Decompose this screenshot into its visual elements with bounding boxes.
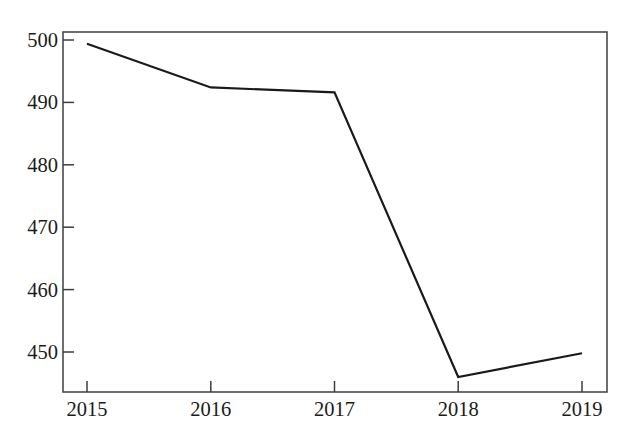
chart-figure: 500 490 480 470 460 450 2015 2016 2017 2… <box>0 0 627 446</box>
x-tick-label-2019: 2019 <box>562 398 603 420</box>
x-tick-label-2016: 2016 <box>190 398 231 420</box>
y-tick-label-460: 460 <box>27 279 58 301</box>
y-tick-label-450: 450 <box>27 341 58 363</box>
x-tick-label-2015: 2015 <box>67 398 108 420</box>
y-tick-label-480: 480 <box>27 154 58 176</box>
y-tick-label-490: 490 <box>27 91 58 113</box>
x-tick-label-2017: 2017 <box>314 398 355 420</box>
y-tick-label-470: 470 <box>27 216 58 238</box>
chart-background <box>0 0 627 446</box>
y-tick-label-500: 500 <box>27 29 58 51</box>
line-chart-plot: 500 490 480 470 460 450 2015 2016 2017 2… <box>0 0 627 446</box>
x-tick-label-2018: 2018 <box>438 398 479 420</box>
